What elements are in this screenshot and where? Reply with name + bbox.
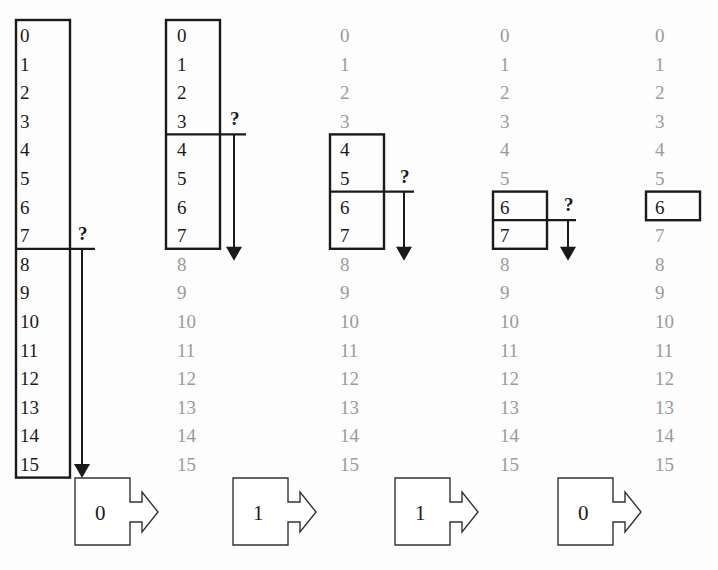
active-value: 5 [20, 168, 30, 189]
active-value: 13 [20, 397, 39, 418]
active-value: 0 [177, 25, 187, 46]
eliminated-value: 4 [500, 139, 510, 160]
arrow-piece-icon [75, 478, 158, 545]
output-bit-label: 1 [415, 501, 426, 525]
output-bit-piece: 0 [558, 478, 641, 545]
eliminated-value: 8 [500, 254, 510, 275]
active-value: 12 [20, 368, 39, 389]
arrow-piece-icon [233, 478, 316, 545]
eliminated-value: 14 [177, 425, 197, 446]
eliminated-value: 9 [177, 282, 187, 303]
active-value: 6 [500, 197, 510, 218]
down-arrow-head-icon [74, 464, 90, 478]
eliminated-value: 3 [655, 111, 665, 132]
active-value: 5 [177, 168, 187, 189]
eliminated-value: 8 [340, 254, 350, 275]
eliminated-value: 0 [500, 25, 510, 46]
eliminated-value: 13 [177, 397, 196, 418]
output-bit-piece: 0 [75, 478, 158, 545]
down-arrow-head-icon [226, 247, 242, 261]
arrow-piece-icon [558, 478, 641, 545]
eliminated-value: 10 [500, 311, 519, 332]
active-value: 6 [340, 197, 350, 218]
active-value: 7 [20, 225, 30, 246]
active-value: 9 [20, 282, 30, 303]
active-value: 1 [177, 54, 187, 75]
eliminated-value: 0 [340, 25, 350, 46]
active-value: 8 [20, 254, 30, 275]
eliminated-value: 7 [655, 225, 665, 246]
binary-search-diagram: 0123456789101112131415?00123456789101112… [0, 0, 718, 570]
eliminated-value: 13 [340, 397, 359, 418]
eliminated-value: 3 [500, 111, 510, 132]
eliminated-value: 5 [655, 168, 665, 189]
active-value: 7 [340, 225, 350, 246]
active-value: 14 [20, 425, 40, 446]
active-value: 2 [20, 82, 30, 103]
eliminated-value: 4 [655, 139, 665, 160]
active-value: 4 [177, 139, 187, 160]
eliminated-value: 14 [655, 425, 675, 446]
eliminated-value: 11 [340, 340, 358, 361]
active-value: 6 [20, 197, 30, 218]
active-value: 6 [655, 197, 665, 218]
active-value: 4 [20, 139, 30, 160]
active-value: 10 [20, 311, 39, 332]
eliminated-value: 1 [500, 54, 510, 75]
active-value: 0 [20, 25, 30, 46]
eliminated-value: 2 [340, 82, 350, 103]
eliminated-value: 15 [177, 454, 196, 475]
step-column-4: 0123456789101112131415?0 [493, 25, 641, 545]
active-value: 4 [340, 139, 350, 160]
eliminated-value: 12 [177, 368, 196, 389]
eliminated-value: 15 [655, 454, 674, 475]
question-mark: ? [564, 194, 574, 215]
question-mark: ? [400, 166, 410, 187]
output-bit-label: 0 [95, 501, 106, 525]
step-column-2: 0123456789101112131415?1 [166, 20, 316, 545]
eliminated-value: 8 [177, 254, 187, 275]
eliminated-value: 8 [655, 254, 665, 275]
eliminated-value: 13 [500, 397, 519, 418]
eliminated-value: 12 [655, 368, 674, 389]
active-value: 3 [177, 111, 187, 132]
active-value: 7 [177, 225, 187, 246]
output-bit-label: 1 [253, 501, 264, 525]
output-bit-piece: 1 [233, 478, 316, 545]
active-value: 1 [20, 54, 30, 75]
step-column-3: 0123456789101112131415?1 [330, 25, 478, 545]
eliminated-value: 13 [655, 397, 674, 418]
active-value: 7 [500, 225, 510, 246]
eliminated-value: 15 [340, 454, 359, 475]
eliminated-value: 5 [500, 168, 510, 189]
eliminated-value: 14 [500, 425, 520, 446]
eliminated-value: 0 [655, 25, 665, 46]
eliminated-value: 9 [500, 282, 510, 303]
step-column-1: 0123456789101112131415?0 [16, 20, 158, 545]
eliminated-value: 11 [177, 340, 195, 361]
eliminated-value: 3 [340, 111, 350, 132]
eliminated-value: 9 [655, 282, 665, 303]
active-value: 2 [177, 82, 187, 103]
eliminated-value: 1 [340, 54, 350, 75]
active-value: 11 [20, 340, 38, 361]
eliminated-value: 2 [655, 82, 665, 103]
eliminated-value: 11 [655, 340, 673, 361]
active-value: 15 [20, 454, 39, 475]
eliminated-value: 9 [340, 282, 350, 303]
output-bit-label: 0 [578, 501, 589, 525]
eliminated-value: 12 [500, 368, 519, 389]
down-arrow-head-icon [560, 247, 576, 261]
arrow-piece-icon [395, 478, 478, 545]
question-mark: ? [78, 223, 88, 244]
eliminated-value: 2 [500, 82, 510, 103]
eliminated-value: 14 [340, 425, 360, 446]
active-value: 3 [20, 111, 30, 132]
eliminated-value: 1 [655, 54, 665, 75]
eliminated-value: 15 [500, 454, 519, 475]
question-mark: ? [230, 108, 240, 129]
eliminated-value: 12 [340, 368, 359, 389]
eliminated-value: 11 [500, 340, 518, 361]
diagram-svg: 0123456789101112131415?00123456789101112… [0, 0, 718, 570]
eliminated-value: 10 [655, 311, 674, 332]
